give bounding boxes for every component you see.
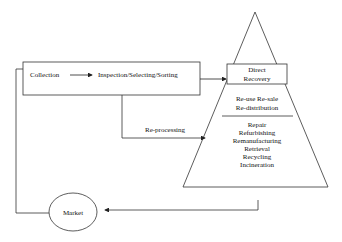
- refurbishing-label: Refurbishing: [215, 129, 299, 137]
- recycling-label: Recycling: [215, 153, 299, 161]
- market-to-collection-connector: [16, 69, 49, 213]
- arrow-to-market: [105, 200, 258, 210]
- repair-label: Repair: [215, 121, 299, 129]
- inspection-label: Inspection/Selecting/Sorting: [98, 71, 178, 79]
- reuse-resale-label: Re-use Re-sale: [217, 95, 297, 103]
- retrieval-label: Retrieval: [215, 145, 299, 153]
- reprocessing-label: Re-processing: [145, 126, 185, 134]
- incineration-label: Incineration: [215, 161, 299, 169]
- collection-label: Collection: [30, 71, 59, 79]
- redistribution-label: Re-distribution: [217, 104, 297, 112]
- market-label: Market: [49, 209, 97, 217]
- direct-label: Direct: [227, 66, 287, 74]
- remanufacturing-label: Remanufacturing: [215, 137, 299, 145]
- recovery-label: Recovery: [227, 75, 287, 83]
